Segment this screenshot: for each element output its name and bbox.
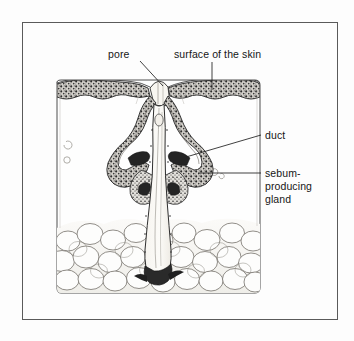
label-duct: duct	[265, 129, 285, 141]
label-sebum-line-3: gland	[265, 193, 291, 205]
skin-cross-section-illustration: pore surface of the skin duct sebum- pro…	[0, 0, 354, 341]
label-sebum-line-2: producing	[265, 180, 312, 192]
label-pore: pore	[108, 48, 129, 60]
skin-diagram-figure: pore surface of the skin duct sebum- pro…	[0, 0, 354, 341]
skin-block	[50, 78, 267, 293]
label-sebum-line-1: sebum-	[265, 167, 301, 179]
label-sebum-producing-gland: sebum- producing gland	[265, 167, 312, 205]
label-surface-of-the-skin: surface of the skin	[174, 48, 261, 60]
